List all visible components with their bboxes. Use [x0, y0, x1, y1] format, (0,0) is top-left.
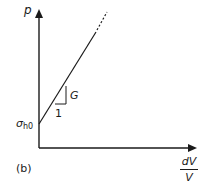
intercept-symbol: σ	[16, 117, 23, 130]
x-axis-label: dV V	[180, 155, 198, 184]
x-axis-label-denominator: V	[180, 170, 198, 184]
intercept-subscript: h0	[23, 122, 33, 131]
y-axis-arrow-icon	[35, 9, 43, 18]
pressure-line	[39, 32, 96, 124]
y-axis-label: p	[24, 4, 32, 16]
intercept-label: σh0	[16, 118, 33, 131]
x-axis-label-numerator: dV	[180, 155, 198, 170]
run-label: 1	[55, 108, 62, 119]
pressure-line-extension	[97, 12, 107, 30]
x-axis-arrow-icon	[188, 144, 197, 152]
panel-label: (b)	[16, 163, 32, 174]
slope-label: G	[70, 90, 79, 101]
